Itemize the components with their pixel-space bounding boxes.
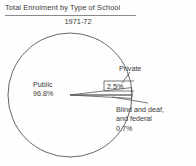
leader-line-blind-deaf-federal [112,97,148,103]
slice-label-public-name: Public [33,80,53,89]
pie-diagram [0,0,196,166]
pie-slice-blind-deaf-federal [70,95,132,98]
slice-label-public-value: 96.8% [33,89,53,98]
slice-label-blind-value: 0.7% [116,124,164,133]
pie-chart-figure: Total Enrolment by Type of School 1971-7… [0,0,196,166]
slice-value-private: 2.5% [107,82,123,91]
slice-label-blind-deaf-federal: Blind and deaf, and federal 0.7% [116,105,164,133]
slice-label-public: Public 96.8% [33,80,53,99]
slice-label-blind-line1: Blind and deaf, [116,105,164,114]
slice-label-private-name: Private [119,64,141,73]
slice-label-blind-line2: and federal [116,114,164,123]
slice-label-private: Private [119,64,141,73]
